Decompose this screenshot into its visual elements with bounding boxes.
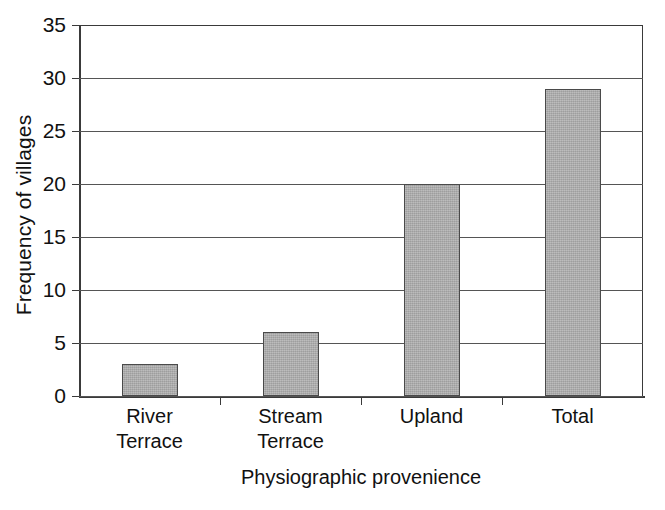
- x-category-label-upland: Upland: [361, 404, 502, 429]
- y-tick-20: [72, 184, 79, 185]
- y-tick-label-30: 30: [26, 67, 66, 88]
- x-category-label-river-terrace: River Terrace: [79, 404, 220, 454]
- bar-chart-figure: Frequency of villages 05101520253035 Riv…: [0, 0, 665, 510]
- y-tick-label-15: 15: [26, 226, 66, 247]
- x-category-label-total: Total: [502, 404, 643, 429]
- y-tick-30: [72, 78, 79, 79]
- y-tick-10: [72, 290, 79, 291]
- y-tick-5: [72, 343, 79, 344]
- bar-stream-terrace: [263, 332, 319, 396]
- y-tick-label-25: 25: [26, 120, 66, 141]
- gridline-35: [79, 25, 643, 26]
- y-tick-label-35: 35: [26, 14, 66, 35]
- y-tick-0: [72, 396, 79, 397]
- gridline-30: [79, 78, 643, 79]
- bar-upland: [404, 184, 460, 396]
- y-tick-label-5: 5: [26, 332, 66, 353]
- bar-total: [545, 89, 601, 396]
- y-tick-label-0: 0: [26, 385, 66, 406]
- x-axis-title: Physiographic provenience: [79, 466, 643, 489]
- y-tick-label-10: 10: [26, 279, 66, 300]
- bar-river-terrace: [122, 364, 178, 396]
- y-tick-25: [72, 131, 79, 132]
- y-tick-label-20: 20: [26, 173, 66, 194]
- x-category-label-stream-terrace: Stream Terrace: [220, 404, 361, 454]
- y-tick-15: [72, 237, 79, 238]
- y-tick-35: [72, 25, 79, 26]
